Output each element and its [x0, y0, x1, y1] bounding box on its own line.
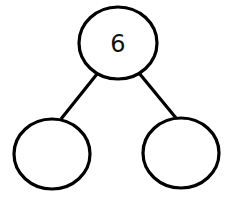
edge-whole-to-left-part	[61, 74, 97, 119]
edge-whole-to-right-part	[139, 73, 176, 118]
number-bond-diagram: 6	[0, 0, 231, 203]
left-part-circle	[14, 119, 90, 189]
right-part-circle	[143, 118, 219, 188]
whole-value: 6	[110, 30, 125, 58]
